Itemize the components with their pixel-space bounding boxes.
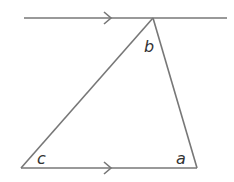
- angle-label-a: a: [176, 149, 186, 168]
- triangle-side-right: [153, 18, 197, 168]
- triangle-diagram: b c a: [0, 0, 234, 182]
- angle-label-c: c: [37, 149, 46, 168]
- triangle-side-left: [21, 18, 153, 168]
- angle-label-b: b: [144, 37, 154, 56]
